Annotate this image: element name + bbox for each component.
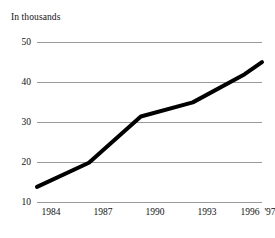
line-chart-figure: In thousands 50 40 30 20 10 1984 1987 19…: [0, 0, 275, 238]
series-line-in-thousands: [37, 62, 262, 187]
series-layer: [0, 0, 275, 238]
